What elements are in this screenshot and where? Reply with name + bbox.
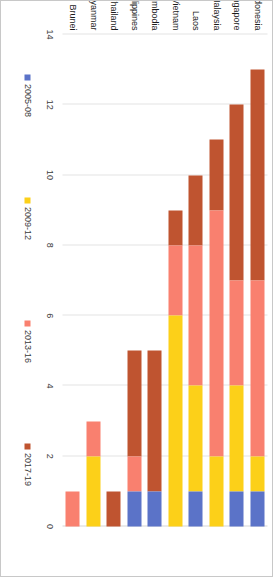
bar-segment [250,280,264,456]
bar-segment [229,491,243,526]
category-label: Vietnam [168,0,182,34]
bar-stack [188,175,202,526]
bar-segment [250,491,264,526]
bar-segment [188,385,202,490]
bar-segment [86,456,100,526]
bar-stack [106,491,120,526]
legend-swatch-icon [24,320,30,326]
bar-row: Myanmar [86,34,100,526]
legend-item[interactable]: 2013-16 [22,320,32,362]
category-label: Laos [188,10,202,34]
bar-segment [250,456,264,491]
axis-tick-label: 10 [44,165,54,185]
axis-tick-label: 4 [44,375,54,395]
bar-segment [229,385,243,490]
axis-tick-label: 12 [44,94,54,114]
bar-row: Laos [188,34,202,526]
legend-label: 2009-12 [22,206,32,239]
bar-segment [147,350,161,491]
legend-item[interactable]: 2005-08 [22,74,32,116]
bar-segment [209,456,223,526]
bar-segment [229,280,243,385]
legend-label: 2013-16 [22,329,32,362]
legend-swatch-icon [24,74,30,80]
legend-item[interactable]: 2017-19 [22,443,32,485]
bar-row: Malaysia [209,34,223,526]
axis-tick-label: 6 [44,305,54,325]
bar-segment [168,245,182,315]
bar-stack [229,104,243,526]
bar-segment [86,421,100,456]
bar-row: Vietnam [168,34,182,526]
category-label: Brunei [65,4,79,34]
bar-segment [188,491,202,526]
bar-segment [250,69,264,280]
chart-legend: 2005-082009-122013-162017-19 [13,34,41,526]
bar-segment [209,139,223,209]
bar-stack [209,139,223,526]
plot-area: 02468101214IndonesiaSingaporeMalaysiaLao… [62,34,267,526]
bar-row: Brunei [65,34,79,526]
category-label: Philippines [127,0,141,34]
bar-stack [168,210,182,526]
bar-stack [147,350,161,526]
legend-swatch-icon [24,197,30,203]
bar-segment [188,245,202,386]
bar-stack [127,350,141,526]
category-label: Singapore [229,0,243,34]
bar-segment [229,104,243,280]
legend-label: 2005-08 [22,83,32,116]
bar-segment [127,491,141,526]
category-label: Thailand [106,0,120,34]
bar-segment [188,175,202,245]
figure-frame: 02468101214IndonesiaSingaporeMalaysiaLao… [0,0,273,577]
bar-segment [168,210,182,245]
rotated-chart-wrapper: 02468101214IndonesiaSingaporeMalaysiaLao… [0,0,273,577]
category-label: Myanmar [86,0,100,34]
axis-tick-label: 8 [44,235,54,255]
axis-tick-label: 0 [44,516,54,536]
legend-label: 2017-19 [22,452,32,485]
bar-segment [209,210,223,456]
bar-segment [127,350,141,455]
legend-item[interactable]: 2009-12 [22,197,32,239]
category-label: Cambodia [147,0,161,34]
category-label: Malaysia [209,0,223,34]
chart-root: 02468101214IndonesiaSingaporeMalaysiaLao… [0,0,273,577]
axis-tick-label: 14 [44,24,54,44]
bar-row: Indonesia [250,34,264,526]
bar-segment [127,456,141,491]
category-label: Indonesia [250,0,264,34]
bar-row: Thailand [106,34,120,526]
bar-segment [147,491,161,526]
bar-row: Singapore [229,34,243,526]
bar-stack [65,491,79,526]
legend-swatch-icon [24,443,30,449]
bar-segment [168,315,182,526]
bar-stack [86,421,100,526]
bar-stack [250,69,264,526]
bar-row: Philippines [127,34,141,526]
bar-row: Cambodia [147,34,161,526]
bar-segment [106,491,120,526]
axis-tick-label: 2 [44,446,54,466]
bar-segment [65,491,79,526]
